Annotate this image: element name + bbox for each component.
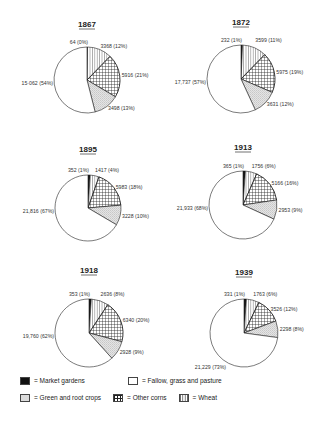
slice-label-market-gardens: 331 (1%) (224, 291, 245, 297)
legend-label: = Wheat (193, 394, 217, 401)
slice-label-other-corns: 5975 (19%) (276, 69, 303, 75)
green-root-swatch-icon (20, 394, 30, 402)
legend-item-market-gardens: = Market gardens (20, 377, 116, 385)
legend-label: = Green and root crops (34, 394, 101, 401)
slice-label-green-root-crops: 2953 (9%) (279, 207, 303, 213)
pie-title: 1895 (79, 145, 97, 154)
slice-label-wheat: 3599 (11%) (255, 37, 282, 43)
slice-label-other-corns: 3526 (12%) (271, 306, 298, 312)
pie-chart-1918: 1918353 (1%)2636 (8%)6340 (20%)2928 (9%)… (23, 266, 150, 367)
other-corns-swatch-icon (113, 394, 123, 402)
slice-label-fallow: 21,816 (67%) (23, 208, 54, 214)
slice-label-wheat: 1756 (6%) (252, 163, 276, 169)
market-gardens-swatch-icon (20, 377, 30, 385)
slice-label-green-root-crops: 2928 (9%) (120, 349, 144, 355)
pie-title: 1913 (234, 143, 252, 152)
slice-label-other-corns: 5916 (21%) (122, 72, 149, 78)
pie-chart-1913: 1913365 (1%)1756 (6%)5166 (16%)2953 (9%)… (177, 143, 303, 239)
legend-label: = Fallow, grass and pasture (142, 377, 222, 384)
slice-label-other-corns: 5166 (16%) (272, 180, 299, 186)
legend-item-fallow: = Fallow, grass and pasture (128, 377, 222, 385)
slice-label-fallow: 21,933 (68%) (177, 205, 208, 211)
slice-label-market-gardens: 232 (1%) (221, 37, 242, 43)
legend: = Market gardens = Fallow, grass and pas… (20, 372, 320, 406)
slice-label-green-root-crops: 3498 (13%) (108, 105, 135, 111)
pie-chart-1895: 1895352 (1%)1417 (4%)5983 (18%)3228 (10%… (23, 145, 149, 241)
fallow-swatch-icon (128, 377, 138, 385)
pie-chart-1872: 1872232 (1%)3599 (11%)5975 (19%)3631 (12… (175, 18, 304, 113)
slice-label-other-corns: 5983 (18%) (116, 184, 143, 190)
legend-row-1: = Market gardens = Fallow, grass and pas… (20, 372, 320, 389)
legend-item-green-root: = Green and root crops (20, 394, 101, 402)
slice-label-market-gardens: 64 (0%) (70, 39, 88, 45)
slice-label-fallow: 19,760 (62%) (23, 333, 54, 339)
slice-label-other-corns: 6340 (20%) (123, 317, 150, 323)
slice-label-wheat: 2636 (8%) (101, 291, 125, 297)
pie-charts-figure: 186764 (0%)3368 (12%)5916 (21%)3498 (13%… (0, 0, 322, 370)
slice-label-fallow: 15·062 (54%) (22, 80, 54, 86)
pie-title: 1867 (78, 20, 96, 29)
legend-item-wheat: = Wheat (179, 394, 217, 402)
slice-label-green-root-crops: 2298 (8%) (280, 326, 304, 332)
slice-label-fallow: 17,737 (57%) (175, 79, 206, 85)
slice-label-wheat: 1417 (4%) (95, 167, 119, 173)
wheat-swatch-icon (179, 394, 189, 402)
slice-label-wheat: 1763 (6%) (253, 291, 277, 297)
legend-label: = Other corns (127, 394, 167, 401)
slice-label-wheat: 3368 (12%) (100, 43, 127, 49)
pie-chart-1867: 186764 (0%)3368 (12%)5916 (21%)3498 (13%… (22, 20, 149, 113)
slice-label-fallow: 21,229 (73%) (195, 364, 226, 370)
slice-label-green-root-crops: 3228 (10%) (122, 213, 149, 219)
slice-label-green-root-crops: 3631 (12%) (267, 101, 294, 107)
slice-label-market-gardens: 365 (1%) (223, 163, 244, 169)
slice-label-market-gardens: 353 (1%) (69, 291, 90, 297)
slice-label-market-gardens: 352 (1%) (68, 167, 89, 173)
legend-label: = Market gardens (34, 377, 85, 384)
pie-chart-1939: 1939331 (1%)1763 (6%)3526 (12%)2298 (8%)… (195, 268, 304, 370)
pie-title: 1918 (80, 266, 98, 275)
pie-title: 1939 (235, 268, 253, 277)
legend-item-other-corns: = Other corns (113, 394, 167, 402)
legend-row-2: = Green and root crops = Other corns = W… (20, 389, 320, 406)
pie-title: 1872 (232, 18, 250, 27)
